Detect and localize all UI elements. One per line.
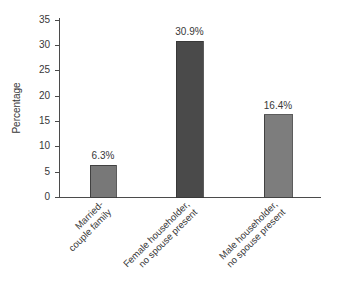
bar-value-label-3: 16.4% (264, 100, 292, 111)
y-axis-ticks (55, 20, 60, 197)
chart-canvas: 0 5 10 15 20 25 30 35 Percentage 6.3% 30… (0, 0, 338, 292)
bar-value-label-2: 30.9% (175, 26, 203, 37)
bar-married-couple-family (90, 165, 116, 197)
bar-value-label-1: 6.3% (92, 150, 115, 161)
bar-female-householder (176, 41, 203, 197)
bar-chart-figure: 0 5 10 15 20 25 30 35 Percentage 6.3% 30… (0, 0, 338, 292)
y-axis-title: Percentage (11, 82, 22, 134)
y-tick-label-15: 15 (39, 115, 51, 126)
x-category-label-2-line-1: Female householder, (121, 199, 192, 270)
x-axis-category-labels: Married- couple family Female householde… (58, 198, 287, 277)
y-tick-label-20: 20 (39, 90, 51, 101)
bar-male-householder (264, 115, 292, 198)
x-category-label-3: Male householder, no spouse present (216, 198, 287, 269)
bar-series (90, 41, 292, 197)
y-tick-label-35: 35 (39, 14, 51, 25)
x-category-label-2: Female householder, no spouse present (121, 198, 200, 277)
y-tick-label-5: 5 (44, 166, 50, 177)
x-category-label-1: Married- couple family (58, 198, 113, 253)
y-tick-label-0: 0 (44, 191, 50, 202)
y-tick-label-10: 10 (39, 140, 51, 151)
y-tick-label-25: 25 (39, 64, 51, 75)
y-tick-label-30: 30 (39, 39, 51, 50)
y-axis-tick-labels: 0 5 10 15 20 25 30 35 (39, 14, 51, 202)
